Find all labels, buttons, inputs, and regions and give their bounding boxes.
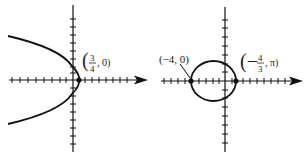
right-graph [161,7,303,152]
left-point-marker [76,77,81,82]
right-point-marker-a [188,78,193,83]
polar-graphs-figure: ( 3 4 , 0) [0,0,305,161]
left-label-numerator: 3 [90,53,95,63]
right-label-rest: , π) [265,57,278,69]
left-graph [8,5,148,152]
left-point-label: ( 3 4 , 0) [82,49,110,74]
right-label-open: (− [240,50,258,73]
right-label-numerator: 4 [258,53,263,63]
left-label-open-paren: ( [82,49,89,72]
right-label-leader-line [180,64,190,78]
right-point-label-b: (− 4 3 , π) [240,50,278,74]
right-point-label-a: (−4, 0) [159,53,189,66]
left-label-rest: , 0) [97,57,110,69]
right-point-marker-b [233,78,238,83]
left-label-denominator: 4 [90,64,95,74]
right-label-denominator: 3 [258,64,263,74]
